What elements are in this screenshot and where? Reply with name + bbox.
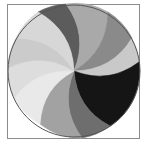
swirl-pie-graphic <box>0 0 143 149</box>
